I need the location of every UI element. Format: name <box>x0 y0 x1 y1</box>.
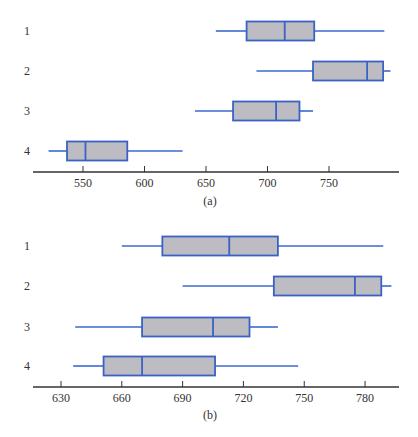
x-tick-label: 660 <box>113 391 131 405</box>
iqr-box <box>162 237 278 256</box>
x-tick-label: 750 <box>320 176 338 190</box>
x-tick-label: 550 <box>74 176 92 190</box>
category-label: 2 <box>24 279 30 293</box>
boxplot-panel-a: 5506006507007501234(a) <box>24 22 399 209</box>
x-tick-label: 780 <box>356 391 374 405</box>
box-row-1: 1 <box>24 237 383 256</box>
x-tick-label: 630 <box>52 391 70 405</box>
x-tick-label: 750 <box>295 391 313 405</box>
category-label: 2 <box>24 64 30 78</box>
box-row-3: 3 <box>24 318 278 337</box>
iqr-box <box>247 22 315 41</box>
x-tick-label: 690 <box>174 391 192 405</box>
box-row-4: 4 <box>24 142 183 161</box>
iqr-box <box>313 62 383 81</box>
category-label: 3 <box>24 320 30 334</box>
category-label: 1 <box>24 239 30 253</box>
x-tick-label: 600 <box>136 176 154 190</box>
iqr-box <box>67 142 127 161</box>
panel-label: (b) <box>203 408 217 422</box>
panel-label: (a) <box>203 194 216 208</box>
iqr-box <box>274 277 381 296</box>
x-tick-label: 700 <box>259 176 277 190</box>
category-label: 4 <box>24 144 30 158</box>
box-row-1: 1 <box>24 22 384 41</box>
x-tick-label: 650 <box>197 176 215 190</box>
boxplot-figure: 5506006507007501234(a) 63066069072075078… <box>0 0 418 437</box>
category-label: 3 <box>24 104 30 118</box>
box-row-2: 2 <box>24 62 391 81</box>
iqr-box <box>233 102 299 121</box>
boxplot-panel-b: 6306606907207507801234(b) <box>24 237 399 423</box>
iqr-box <box>142 318 249 337</box>
box-row-3: 3 <box>24 102 313 121</box>
iqr-box <box>104 357 215 376</box>
x-tick-label: 720 <box>234 391 252 405</box>
category-label: 4 <box>24 359 30 373</box>
box-row-4: 4 <box>24 357 298 376</box>
category-label: 1 <box>24 24 30 38</box>
box-row-2: 2 <box>24 277 391 296</box>
